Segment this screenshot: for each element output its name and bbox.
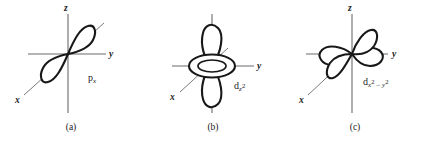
y-axis-label-a: y — [108, 49, 114, 59]
orbital-diagram-a: z y x — [0, 0, 142, 120]
caption-b: (b) — [142, 122, 284, 132]
orbital-diagram-b: y x — [142, 0, 284, 120]
orbital-label-a: px — [88, 72, 96, 85]
orbital-label-b: dz2 — [234, 80, 245, 93]
y-axis-label-c: y — [391, 49, 397, 59]
y-axis-label-b: y — [256, 61, 262, 71]
orbital-diagram-c: z y x — [284, 0, 426, 120]
orbital-panel-c: z y x dx2 – y2 (c) — [284, 0, 426, 146]
p-orbital-lobe-upper-a — [68, 26, 95, 54]
p-orbital-lobe-lower-a — [41, 54, 68, 82]
caption-a: (a) — [0, 122, 142, 132]
orbital-label-sub-a: x — [93, 77, 96, 85]
orbital-label-minus-c: – — [375, 81, 382, 89]
orbital-figure-strip: z y x px (a) y x — [0, 0, 426, 146]
orbital-panel-a: z y x px (a) — [0, 0, 142, 146]
x-axis-label-a: x — [14, 95, 20, 105]
z-axis-label-c: z — [347, 3, 352, 13]
orbital-label-sup2-c: 2 — [385, 78, 388, 85]
orbital-label-c: dx2 – y2 — [363, 76, 389, 89]
orbital-label-sup-b: 2 — [242, 82, 245, 89]
x-axis-label-b: x — [169, 92, 175, 102]
caption-c: (c) — [284, 122, 426, 132]
orbital-panel-b: y x dz2 (b) — [142, 0, 284, 146]
dz2-torus-outer-b — [189, 55, 235, 78]
x-axis-label-c: x — [298, 95, 304, 105]
z-axis-label-a: z — [63, 3, 68, 13]
